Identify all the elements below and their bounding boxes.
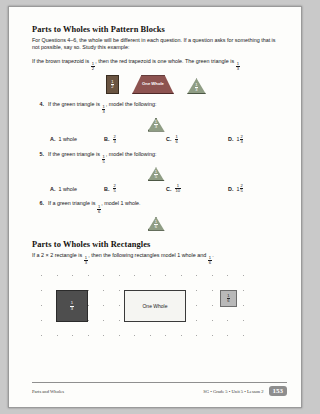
red-trapezoid-block: One Whole bbox=[132, 75, 174, 94]
question-6-triangle-fraction: 1 6 bbox=[154, 220, 157, 229]
question-5-choice-a[interactable]: A. 1 whole bbox=[50, 184, 104, 193]
grid-dot bbox=[181, 275, 182, 276]
question-4-triangle-shape: 1 3 bbox=[32, 118, 280, 132]
grid-dot bbox=[196, 320, 197, 321]
grid-dot bbox=[103, 320, 104, 321]
grid-dot bbox=[212, 290, 213, 291]
grid-dot bbox=[88, 335, 89, 336]
grid-dot bbox=[165, 335, 166, 336]
choice-fraction: 1 6 bbox=[175, 135, 178, 144]
red-trapezoid-label: One Whole bbox=[142, 82, 164, 87]
section-title-rectangles: Parts to Wholes with Rectangles bbox=[32, 240, 280, 249]
grid-dot bbox=[119, 335, 120, 336]
grid-dot bbox=[227, 335, 228, 336]
grid-dot bbox=[181, 335, 182, 336]
footer-lesson-title: Parts and Wholes bbox=[32, 389, 64, 394]
question-5-fraction: 1 5 bbox=[102, 155, 105, 164]
grid-dot bbox=[150, 335, 151, 336]
choice-fraction: 2 3 bbox=[240, 135, 243, 144]
choice-fraction: 2 5 bbox=[240, 184, 243, 193]
grid-dot bbox=[227, 275, 228, 276]
grid-dot bbox=[165, 275, 166, 276]
green-triangle-block: 1 3 bbox=[187, 78, 206, 94]
question-4-text: If the green triangle is 1 3 , model the… bbox=[48, 101, 280, 114]
question-4: 4. If the green triangle is 1 3 , model … bbox=[32, 101, 280, 114]
choice-fraction: 2 5 bbox=[113, 184, 116, 193]
question-4-number: 4. bbox=[32, 101, 48, 114]
question-5-choice-b[interactable]: B. 2 5 bbox=[104, 184, 166, 193]
footer-meta: SG • Grade 5 • Unit 5 • Lesson 2 bbox=[203, 389, 263, 394]
question-4-choice-b[interactable]: B. 2 3 bbox=[104, 135, 166, 144]
mixed-number: 1 2 3 bbox=[236, 135, 243, 144]
question-6-triangle-shape: 1 6 bbox=[32, 217, 280, 231]
grid-dot bbox=[119, 290, 120, 291]
page-number-badge: 153 bbox=[269, 386, 288, 396]
grid-dot bbox=[103, 290, 104, 291]
page-content: Parts to Wholes with Pattern Blocks For … bbox=[32, 25, 280, 338]
question-5-choice-d[interactable]: D. 1 2 5 bbox=[228, 184, 278, 193]
grid-dot bbox=[41, 290, 42, 291]
grid-dot bbox=[196, 290, 197, 291]
grid-dot bbox=[134, 275, 135, 276]
question-5-text: If the green triangle is 1 5 , model the… bbox=[48, 151, 280, 164]
grid-dot bbox=[134, 335, 135, 336]
grid-dot bbox=[150, 275, 151, 276]
grid-dot bbox=[196, 275, 197, 276]
grid-dot bbox=[212, 275, 213, 276]
grid-dot bbox=[41, 305, 42, 306]
grid-dot bbox=[103, 275, 104, 276]
question-4-fraction: 1 3 bbox=[102, 105, 105, 114]
grid-dot bbox=[41, 335, 42, 336]
choice-fraction: 1 10 bbox=[175, 184, 181, 193]
question-5-number: 5. bbox=[32, 151, 48, 164]
question-4-choice-d[interactable]: D. 1 2 3 bbox=[228, 135, 278, 144]
grid-dot bbox=[119, 305, 120, 306]
question-5-triangle-fraction: 1 5 bbox=[154, 170, 157, 179]
question-4-triangle-fraction: 1 3 bbox=[154, 120, 157, 129]
section2-intro-text: If a 2 × 2 rectangle is 1 3 , then the f… bbox=[32, 252, 280, 265]
mixed-number: 1 2 5 bbox=[236, 184, 243, 193]
question-6-number: 6. bbox=[32, 200, 48, 213]
example-text-part1: If the brown trapezoid is bbox=[32, 58, 89, 64]
section-title-pattern-blocks: Parts to Wholes with Pattern Blocks bbox=[32, 25, 280, 34]
question-5: 5. If the green triangle is 1 5 , model … bbox=[32, 151, 280, 164]
one-whole-rectangle: One Whole bbox=[124, 290, 186, 322]
grid-dot bbox=[57, 335, 58, 336]
small-gray-rectangle: 1 6 bbox=[220, 290, 237, 307]
section1-intro-text: For Questions 4–6, the whole will be dif… bbox=[32, 37, 280, 52]
grid-dot bbox=[72, 335, 73, 336]
grid-dot bbox=[72, 275, 73, 276]
example-pattern-blocks: 1 2 One Whole 1 3 bbox=[32, 75, 280, 94]
grid-dot bbox=[196, 335, 197, 336]
grid-dot bbox=[196, 305, 197, 306]
question-6-text: If a green triangle is 1 6 , model 1 who… bbox=[48, 200, 280, 213]
grid-dot bbox=[41, 320, 42, 321]
question-4-choice-a[interactable]: A. 1 whole bbox=[50, 135, 104, 144]
grid-dot bbox=[212, 320, 213, 321]
grid-dot bbox=[88, 275, 89, 276]
question-4-choices: A. 1 whole B. 2 3 C. 1 6 D. 1 bbox=[50, 135, 280, 144]
grid-dot bbox=[103, 305, 104, 306]
grid-dot bbox=[212, 335, 213, 336]
question-5-triangle-shape: 1 5 bbox=[32, 167, 280, 181]
choice-fraction: 2 3 bbox=[113, 135, 116, 144]
example-text-part2: , then the red trapezoid is one whole. T… bbox=[95, 58, 234, 64]
dark-square-fraction: 1 3 bbox=[70, 301, 73, 310]
grid-dot bbox=[243, 275, 244, 276]
example-statement: If the brown trapezoid is 1 2 , then the… bbox=[32, 58, 280, 71]
grid-dot bbox=[243, 290, 244, 291]
grid-dot bbox=[41, 275, 42, 276]
question-6: 6. If a green triangle is 1 6 , model 1 … bbox=[32, 200, 280, 213]
question-4-choice-c[interactable]: C. 1 6 bbox=[166, 135, 228, 144]
brown-rhombus-fraction: 1 2 bbox=[111, 80, 114, 89]
grid-dot bbox=[119, 320, 120, 321]
question-5-choices: A. 1 whole B. 2 5 C. 1 10 D. 1 bbox=[50, 184, 280, 193]
example-fraction-one-third: 1 3 bbox=[236, 62, 239, 71]
grid-dot bbox=[227, 320, 228, 321]
grid-dot bbox=[119, 275, 120, 276]
small-gray-fraction: 1 6 bbox=[227, 294, 230, 303]
dark-square-rectangle: 1 3 bbox=[56, 290, 88, 322]
page-footer: Parts and Wholes SG • Grade 5 • Unit 5 •… bbox=[32, 382, 287, 396]
grid-dot bbox=[103, 335, 104, 336]
question-5-choice-c[interactable]: C. 1 10 bbox=[166, 184, 228, 193]
